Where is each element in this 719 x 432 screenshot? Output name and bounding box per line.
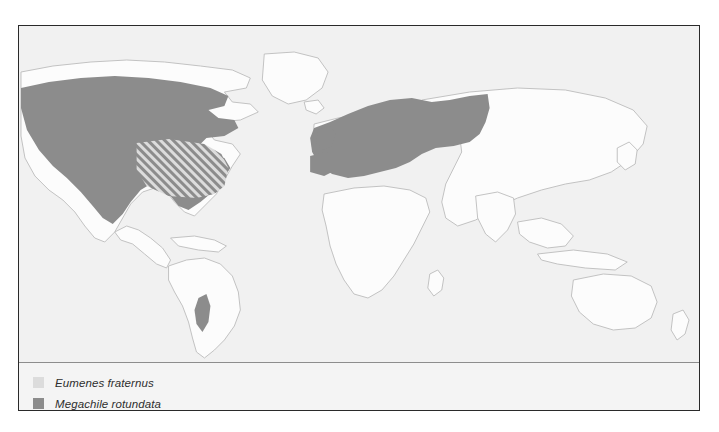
legend-label-megachile: Megachile rotundata bbox=[55, 398, 161, 410]
legend-swatch-megachile bbox=[33, 398, 44, 409]
distribution-map-figure: Eumenes fraternus Megachile rotundata bbox=[18, 25, 700, 411]
map-area bbox=[19, 26, 699, 362]
legend-swatch-eumenes bbox=[33, 377, 44, 388]
legend-item-eumenes: Eumenes fraternus bbox=[33, 372, 699, 393]
legend-label-eumenes: Eumenes fraternus bbox=[55, 377, 154, 389]
legend-item-megachile: Megachile rotundata bbox=[33, 393, 699, 411]
map-legend: Eumenes fraternus Megachile rotundata bbox=[19, 363, 699, 410]
world-map-svg bbox=[19, 26, 699, 362]
